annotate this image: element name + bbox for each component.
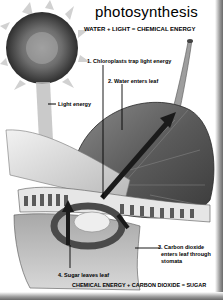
equation-bottom: CHEMICAL ENERGY + CARBON DIOXIDE = SUGAR	[72, 282, 206, 288]
diagram-title: photosynthesis	[95, 3, 198, 20]
equation-top: WATER + LIGHT = CHEMICAL ENERGY	[84, 26, 195, 32]
label-step3-line2: enters leaf through	[161, 251, 211, 258]
label-step2: 2. Water enters leaf	[108, 78, 158, 85]
frame-shadow-right	[215, 0, 223, 300]
photosynthesis-diagram: photosynthesis WATER + LIGHT = CHEMICAL …	[0, 0, 223, 300]
label-step1: 1. Chloroplasts trap light energy	[87, 58, 171, 65]
label-light-energy: Light energy	[58, 101, 91, 108]
label-step3-line1: 3. Carbon dioxide	[158, 244, 204, 251]
label-step4: 4. Sugar leaves leaf	[58, 272, 109, 279]
label-step3-line3: stomata	[161, 258, 182, 265]
sun-icon	[0, 0, 90, 90]
frame-shadow-bottom	[0, 292, 223, 300]
